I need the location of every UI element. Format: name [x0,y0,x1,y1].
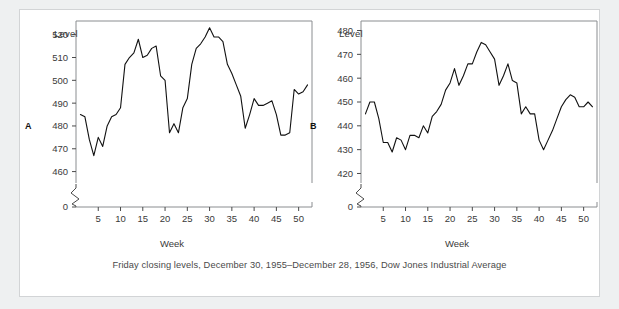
chart-panel-b: Level B Week 420430440450460470480051015… [305,10,605,268]
svg-text:460: 460 [337,73,353,84]
svg-text:440: 440 [337,120,353,131]
panel-a-ylabel: Level [54,28,78,39]
panel-b-plot: 4204304404504604704800510152025303540455… [305,10,605,235]
svg-text:50: 50 [293,213,304,224]
svg-text:30: 30 [489,213,500,224]
svg-text:35: 35 [512,213,523,224]
svg-text:30: 30 [204,213,215,224]
svg-text:45: 45 [271,213,282,224]
svg-text:490: 490 [52,98,68,109]
svg-text:0: 0 [63,201,68,212]
panel-b-letter: B [310,121,317,131]
svg-text:25: 25 [467,213,478,224]
figure-caption: Friday closing levels, December 30, 1955… [20,260,599,270]
svg-text:430: 430 [337,144,353,155]
svg-text:50: 50 [578,213,589,224]
svg-text:420: 420 [337,168,353,179]
svg-text:460: 460 [52,166,68,177]
svg-text:510: 510 [52,52,68,63]
svg-text:20: 20 [445,213,456,224]
svg-text:5: 5 [96,213,101,224]
svg-text:500: 500 [52,75,68,86]
panel-a-plot: 4604704804905005105200510152025303540455… [20,10,320,235]
svg-text:35: 35 [227,213,238,224]
panel-b-xlabel: Week [445,238,469,249]
svg-text:450: 450 [337,96,353,107]
svg-text:15: 15 [423,213,434,224]
svg-text:5: 5 [381,213,386,224]
svg-text:40: 40 [534,213,545,224]
svg-text:10: 10 [115,213,126,224]
chart-panel-a: Level A Week 460470480490500510520051015… [20,10,320,268]
svg-text:0: 0 [348,201,353,212]
svg-text:40: 40 [249,213,260,224]
panel-a-xlabel: Week [160,238,184,249]
svg-text:470: 470 [337,49,353,60]
svg-text:20: 20 [160,213,171,224]
svg-text:10: 10 [400,213,411,224]
svg-text:15: 15 [138,213,149,224]
figure-card: Level A Week 460470480490500510520051015… [19,9,600,297]
panel-a-letter: A [25,121,32,131]
panel-b-ylabel: Level [339,28,363,39]
svg-text:480: 480 [52,120,68,131]
svg-text:25: 25 [182,213,193,224]
svg-text:470: 470 [52,143,68,154]
svg-text:45: 45 [556,213,567,224]
